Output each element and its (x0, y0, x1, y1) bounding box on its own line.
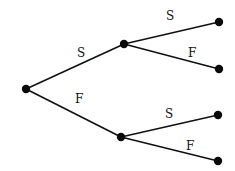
label-s-ss: S (166, 9, 174, 23)
node-ff (214, 157, 222, 165)
edge-root-s (26, 44, 124, 89)
label-s-sf: F (188, 46, 196, 60)
node-ss (215, 18, 223, 26)
node-sf (215, 65, 223, 73)
node-root (22, 85, 30, 93)
edge-s-ss (124, 22, 219, 44)
edge-labels: S F S F S F (75, 9, 196, 153)
probability-tree: S F S F S F (0, 0, 235, 171)
label-f-ff: F (186, 139, 194, 153)
node-s (120, 40, 128, 48)
edge-root-f (26, 89, 121, 137)
node-f (117, 133, 125, 141)
label-f-fs: S (165, 107, 173, 121)
node-fs (214, 111, 222, 119)
label-root-s: S (77, 46, 85, 60)
edge-f-ff (121, 137, 218, 161)
edge-s-sf (124, 44, 219, 69)
label-root-f: F (75, 92, 83, 106)
